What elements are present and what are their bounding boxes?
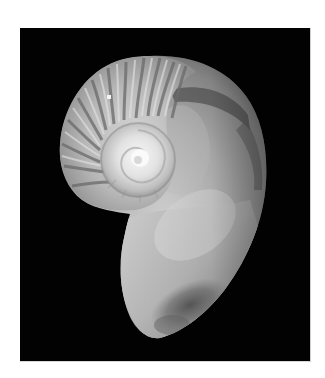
nautilus-shell-illustration bbox=[20, 28, 311, 362]
photo-frame: Nautilus shell bbox=[0, 0, 325, 378]
nautilus-photo: Nautilus shell bbox=[20, 28, 311, 362]
shell-body bbox=[50, 50, 280, 350]
